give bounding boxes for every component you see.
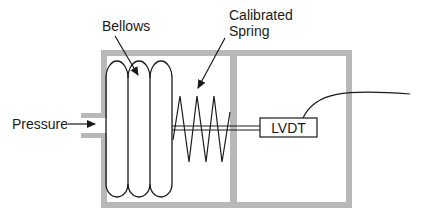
diagram-canvas: LVDT Bellows Calibrated Spring Pressure — [0, 0, 425, 216]
pressure-label: Pressure — [12, 116, 68, 132]
spring-arrow — [198, 38, 225, 88]
lvdt-label: LVDT — [271, 120, 306, 136]
lvdt-cable — [303, 92, 410, 118]
lvdt-box: LVDT — [260, 118, 317, 137]
lvdt-shaft — [172, 126, 260, 130]
spring-label-line2: Spring — [229, 23, 269, 39]
bellows — [106, 61, 172, 197]
bellows-label: Bellows — [102, 18, 150, 34]
spring-label-line1: Calibrated — [229, 7, 293, 23]
calibrated-spring — [173, 96, 230, 162]
